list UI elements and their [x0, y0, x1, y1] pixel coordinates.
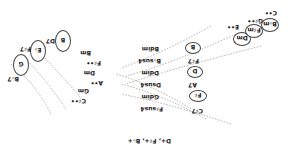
chord-node: B♭m	[261, 18, 279, 32]
chord-node: F♯	[189, 90, 207, 102]
arc-label: Dm	[84, 70, 95, 76]
chord-node: E♭	[30, 40, 46, 62]
chord-label: F♯sus4	[140, 106, 163, 112]
chord-label: C♯7	[192, 108, 203, 114]
arc-label: Bm	[80, 50, 91, 56]
chord-label: Bdim	[142, 46, 159, 52]
chord-label: B♭sus4	[138, 58, 161, 64]
chord-node: B	[185, 42, 201, 54]
chord-label: Dsus4	[140, 82, 161, 88]
chord-label: D7	[46, 38, 55, 44]
chord-node: G	[13, 54, 29, 76]
chord-label: B♭7	[7, 76, 19, 82]
arc-label: Gm	[78, 88, 89, 94]
arc-label: F♯••	[86, 60, 101, 66]
chord-label: Gdim	[141, 94, 159, 100]
chord-label: F♯7	[188, 58, 199, 64]
chord-diagram: Bdim B♭sus4 Ddim Dsus4 Gdim F♯sus4 D+, F…	[0, 0, 291, 164]
chord-node: B	[55, 30, 71, 52]
chord-label: C••	[265, 10, 277, 16]
chord-node: D	[187, 66, 203, 78]
chord-label: Ddim	[141, 70, 159, 76]
arc-label: A••	[91, 80, 103, 86]
footer-label: D+, F♯+, B♭+	[128, 138, 171, 144]
chord-label: F♯7	[20, 46, 31, 52]
chord-label: E••	[227, 24, 239, 30]
arc-label: C♯••	[71, 98, 86, 104]
chord-label: A7	[188, 82, 197, 88]
